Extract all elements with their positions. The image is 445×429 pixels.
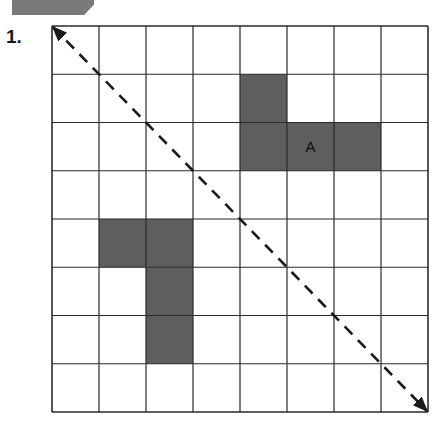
section-tab-bar bbox=[12, 0, 94, 15]
symmetry-grid: A bbox=[52, 26, 428, 412]
exercise-number: 1. bbox=[6, 26, 22, 48]
grid-canvas bbox=[52, 26, 428, 412]
shaded-cell bbox=[99, 219, 146, 267]
shaded-cell bbox=[240, 74, 287, 122]
shaded-cell bbox=[146, 267, 193, 315]
shaded-cell bbox=[240, 123, 287, 171]
shaded-cell bbox=[146, 219, 193, 267]
shaded-cell bbox=[146, 316, 193, 364]
shaded-cell bbox=[334, 123, 381, 171]
shape-label-a: A bbox=[287, 139, 334, 154]
